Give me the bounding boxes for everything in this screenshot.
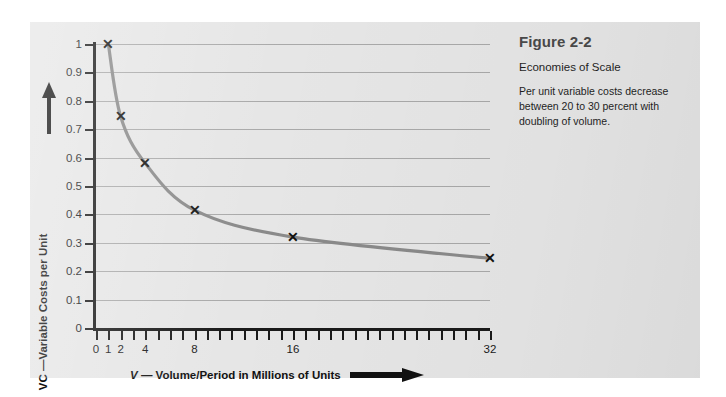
x-axis-tick — [305, 331, 307, 340]
x-axis-tick — [478, 331, 480, 340]
x-axis-tick — [465, 331, 467, 340]
caption-body: Per unit variable costs decrease between… — [519, 84, 679, 129]
data-point-marker: ✕ — [188, 204, 201, 217]
data-point-marker: ✕ — [102, 38, 115, 51]
x-axis-tick — [428, 331, 430, 340]
figure-panel: VC —Variable Costs per Unit 00.10.20.30.… — [30, 22, 700, 378]
y-axis-tick — [85, 44, 93, 46]
y-axis-tick-label: 0.7 — [66, 123, 82, 135]
x-axis-tick — [207, 331, 209, 340]
x-axis-tick — [244, 331, 246, 340]
x-axis-tick-label: 32 — [484, 343, 497, 355]
y-axis-tick-label: 0 — [76, 322, 82, 334]
x-axis-tick-label: 16 — [287, 343, 300, 355]
x-axis-tick — [379, 331, 381, 340]
x-axis-tick — [256, 331, 258, 340]
x-axis-tick — [195, 331, 197, 340]
data-point-marker: ✕ — [114, 110, 127, 123]
x-axis-tick — [355, 331, 357, 340]
y-axis-tick — [85, 186, 93, 188]
y-axis-title: VC —Variable Costs per Unit — [38, 82, 60, 312]
x-axis-title-label: V — Volume/Period in Millions of Units — [130, 369, 341, 381]
x-axis-tick — [268, 331, 270, 340]
y-axis-tick-label: 0.2 — [66, 265, 82, 277]
x-axis-line — [93, 328, 490, 331]
y-axis-tick — [85, 158, 93, 160]
y-axis-tick — [85, 243, 93, 245]
x-axis-symbol: V — [130, 369, 138, 381]
y-axis-tick — [85, 101, 93, 103]
x-axis-tick — [219, 331, 221, 340]
data-point-marker: ✕ — [287, 231, 300, 244]
x-axis-tick — [330, 331, 332, 340]
x-axis-tick-label: 1 — [105, 343, 111, 355]
x-axis-tick — [453, 331, 455, 340]
x-axis-tick — [158, 331, 160, 340]
x-axis-tick — [490, 331, 492, 340]
y-axis-title-label: VC —Variable Costs per Unit — [37, 234, 49, 391]
y-axis-tick-label: 0.9 — [66, 66, 82, 78]
x-axis-tick — [281, 331, 283, 340]
y-axis-tick-label: 0.3 — [66, 237, 82, 249]
y-axis-tick — [85, 271, 93, 273]
x-axis-tick-label: 8 — [191, 343, 197, 355]
arrow-up-icon — [41, 82, 57, 134]
x-axis-tick — [121, 331, 123, 340]
data-point-marker: ✕ — [484, 252, 497, 265]
arrow-right-icon — [350, 368, 424, 382]
y-axis-tick-label: 0.1 — [66, 294, 82, 306]
x-axis-tick — [392, 331, 394, 340]
x-axis-tick — [367, 331, 369, 340]
y-axis-tick-label: 0.6 — [66, 152, 82, 164]
x-axis-tick — [108, 331, 110, 340]
x-axis-tick — [318, 331, 320, 340]
x-axis-tick — [404, 331, 406, 340]
y-axis-tick-label: 1 — [76, 38, 82, 50]
figure-caption: Figure 2-2 Economies of Scale Per unit v… — [519, 33, 679, 129]
x-axis-tick — [342, 331, 344, 340]
x-axis-tick-label: 4 — [142, 343, 148, 355]
y-axis-tick — [85, 214, 93, 216]
x-axis-tick-label: 2 — [117, 343, 123, 355]
x-axis-tick — [182, 331, 184, 340]
x-axis-tick — [145, 331, 147, 340]
x-axis-tick-label: 0 — [93, 343, 99, 355]
y-axis-tick-label: 0.5 — [66, 180, 82, 192]
y-axis-tick — [85, 72, 93, 74]
y-axis-tick — [85, 129, 93, 131]
data-point-marker: ✕ — [139, 157, 152, 170]
x-axis-title-text: — Volume/Period in Millions of Units — [141, 369, 341, 381]
y-axis-tick-label: 0.8 — [66, 95, 82, 107]
y-axis-tick — [85, 328, 93, 330]
plot-area: 00.10.20.30.40.50.60.70.80.91 012481632 … — [96, 44, 490, 328]
x-axis-tick — [170, 331, 172, 340]
x-axis-tick — [441, 331, 443, 340]
x-axis-tick — [293, 331, 295, 340]
y-axis-tick-label: 0.4 — [66, 208, 82, 220]
caption-title: Figure 2-2 — [519, 33, 679, 50]
x-axis-tick — [416, 331, 418, 340]
cost-curve — [96, 44, 490, 328]
caption-subtitle: Economies of Scale — [519, 61, 679, 73]
x-axis-title: V — Volume/Period in Millions of Units — [130, 368, 424, 382]
x-axis-tick — [231, 331, 233, 340]
y-axis-tick — [85, 300, 93, 302]
x-axis-tick — [96, 331, 98, 340]
x-axis-tick — [133, 331, 135, 340]
